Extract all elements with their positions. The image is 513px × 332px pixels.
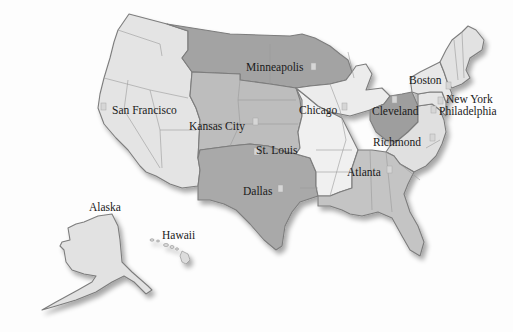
label-chicago: Chicago <box>299 104 338 117</box>
label-minneapolis: Minneapolis <box>246 61 304 74</box>
federal-reserve-map: San Francisco Kansas City Minneapolis St… <box>0 0 513 332</box>
label-cleveland: Cleveland <box>372 105 419 117</box>
label-philadelphia: Philadelphia <box>439 105 497 118</box>
label-hawaii: Hawaii <box>162 229 195 241</box>
label-boston: Boston <box>409 74 442 86</box>
map-svg: San Francisco Kansas City Minneapolis St… <box>0 0 513 332</box>
label-richmond: Richmond <box>373 136 421 148</box>
label-kansas-city: Kansas City <box>189 120 245 133</box>
label-atlanta: Atlanta <box>347 166 381 178</box>
hawaii-islands[interactable] <box>150 239 190 264</box>
label-new-york: New York <box>446 93 493 105</box>
label-st-louis: St. Louis <box>256 144 298 156</box>
label-alaska: Alaska <box>89 201 121 213</box>
label-san-francisco: San Francisco <box>112 104 177 116</box>
label-dallas: Dallas <box>243 185 273 197</box>
alaska-shape[interactable] <box>42 214 152 310</box>
district-dallas[interactable] <box>198 144 318 250</box>
